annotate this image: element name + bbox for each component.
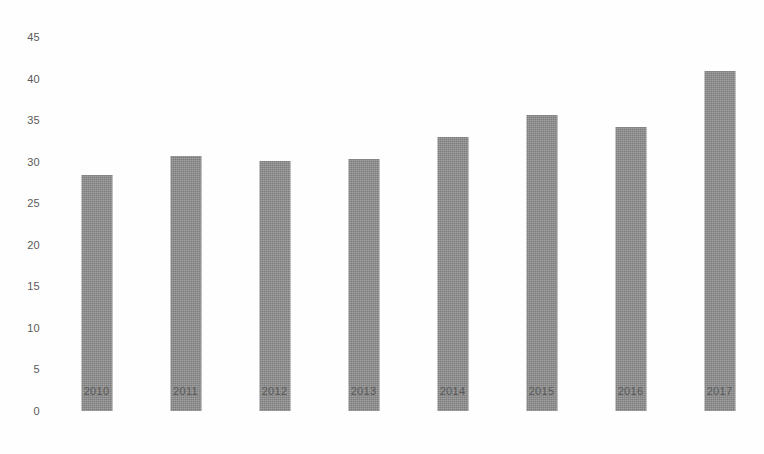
bar-group: 2015 [497,0,586,411]
bar-group: 2010 [52,0,141,411]
bar [615,127,646,411]
y-tick-label: 35 [27,115,40,126]
y-tick-label: 20 [27,239,40,250]
y-tick-label: 40 [27,73,40,84]
y-tick-label: 10 [27,322,40,333]
bar [348,159,379,411]
bar [526,115,557,411]
y-tick-label: 45 [27,32,40,43]
bar-group: 2012 [230,0,319,411]
x-tick-label: 2014 [440,386,466,397]
bar-group: 2014 [408,0,497,411]
bar-group: 2016 [586,0,675,411]
y-tick-label: 30 [27,156,40,167]
bar-group: 2011 [141,0,230,411]
x-tick-label: 2010 [84,386,110,397]
x-tick-label: 2015 [529,386,555,397]
bar [704,71,735,411]
bar-group: 2013 [319,0,408,411]
x-tick-label: 2011 [173,386,198,397]
y-tick-label: 0 [34,406,40,417]
y-tick-label: 25 [27,198,40,209]
bar-chart: 454035302520151050 201020112012201320142… [0,0,764,454]
y-tick-label: 5 [34,364,40,375]
x-tick-label: 2017 [707,386,733,397]
y-axis: 454035302520151050 [0,0,52,454]
bar [170,156,201,411]
bar [437,137,468,411]
bar [259,161,290,411]
x-tick-label: 2012 [262,386,288,397]
bar [81,175,112,411]
x-tick-label: 2016 [618,386,644,397]
bar-group: 2017 [675,0,764,411]
x-tick-label: 2013 [351,386,377,397]
y-tick-label: 15 [27,281,40,292]
plot-area: 20102011201220132014201520162017 [52,0,764,454]
